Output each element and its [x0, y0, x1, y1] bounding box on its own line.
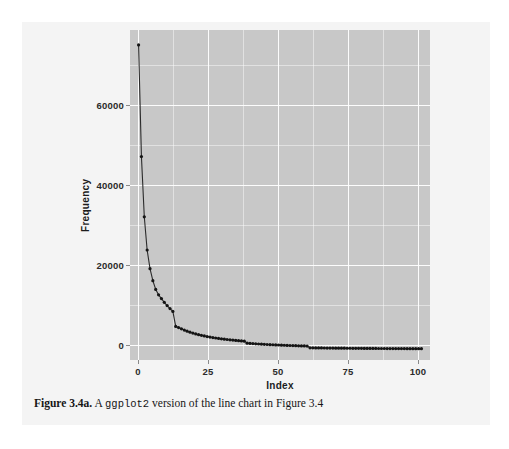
x-tick-label-25: 25 [188, 366, 228, 377]
x-tick-mark-25 [208, 360, 209, 364]
y-tick-label-40000: 40000 [70, 180, 124, 191]
figure-caption-text-before: A [95, 397, 103, 409]
y-tick-label-60000: 60000 [70, 100, 124, 111]
y-tick-label-20000: 20000 [70, 260, 124, 271]
x-tick-mark-75 [348, 360, 349, 364]
figure-caption-label: Figure 3.4a. [34, 397, 92, 409]
plot-panel [130, 30, 430, 360]
x-tick-mark-50 [278, 360, 279, 364]
x-axis-title: Index [130, 380, 430, 391]
x-tick-label-50: 50 [258, 366, 298, 377]
figure-page-sheet: Frequency 60000 40000 20000 0 [22, 22, 490, 425]
figure-caption: Figure 3.4a. A ggplot2 version of the li… [34, 396, 478, 412]
data-point-markers [137, 43, 423, 350]
x-tick-label-0: 0 [118, 366, 158, 377]
x-tick-mark-100 [418, 360, 419, 364]
data-line [139, 45, 422, 349]
figure-caption-text-after: version of the line chart in Figure 3.4 [152, 397, 323, 409]
data-layer [130, 30, 430, 360]
x-tick-mark-0 [138, 360, 139, 364]
y-tick-label-0: 0 [70, 340, 124, 351]
x-tick-label-100: 100 [398, 366, 438, 377]
x-tick-label-75: 75 [328, 366, 368, 377]
figure-caption-code: ggplot2 [105, 398, 149, 410]
chart-figure: Frequency 60000 40000 20000 0 [22, 22, 490, 382]
